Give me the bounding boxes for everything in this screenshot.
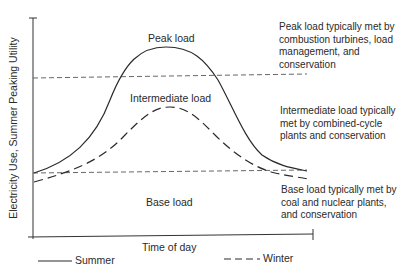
peak-load-annotation: Peak load typically met by combustion tu… (279, 21, 395, 71)
base-load-annotation: Base load typically met by coal and nucl… (281, 184, 397, 222)
solid-line-swatch-icon (38, 258, 72, 264)
x-axis-label: Time of day (142, 241, 196, 254)
intermediate-load-label: Intermediate load (130, 92, 211, 105)
summer-curve (34, 47, 307, 173)
peak-load-label: Peak load (148, 32, 195, 45)
legend-winter: Winter (224, 252, 293, 265)
legend-summer: Summer (38, 254, 115, 267)
legend-winter-label: Winter (263, 252, 293, 265)
base-load-label: Base load (146, 196, 193, 209)
dashed-line-swatch-icon (224, 256, 260, 262)
legend-summer-label: Summer (75, 254, 115, 267)
peak-threshold-line (33, 74, 307, 78)
x-axis (28, 234, 313, 237)
base-threshold-line (33, 170, 307, 173)
intermediate-load-annotation: Intermediate load typically met by combi… (280, 105, 396, 143)
y-axis-label: Electricity Use, Summer Peaking Utility (6, 18, 20, 238)
